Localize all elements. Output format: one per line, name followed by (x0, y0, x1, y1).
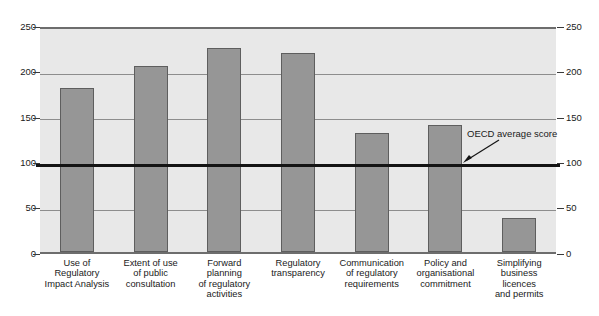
annotation-arrow-icon (455, 138, 501, 164)
bar-chart: 250 200 150 100 50 0 250 200 150 100 50 … (0, 0, 599, 316)
bar-regulatory-transparency (281, 53, 315, 252)
x-label-extent-of-use-of-public-consultation: Extent of useof publicconsultation (114, 258, 188, 300)
y-tick-right-150: 150 (566, 113, 599, 123)
bar-use-of-regulatory-impact-analysis (60, 88, 94, 252)
tickmark-left-250 (33, 27, 40, 28)
bar-forward-planning-of-regulatory-activities (207, 48, 241, 252)
x-label-simplifying-business-licences-and-permits: Simplifyingbusinesslicencesand permits (482, 258, 556, 300)
tickmark-right-0 (557, 254, 564, 255)
y-tick-right-100: 100 (566, 158, 599, 168)
x-label-forward-planning-of-regulatory-activities: Forwardplanningof regulatoryactivities (187, 258, 261, 300)
tickmark-right-200 (557, 72, 564, 73)
bar-communication-of-regulatory-requirements (355, 133, 389, 252)
x-axis-labels: Use ofRegulatoryImpact Analysis Extent o… (40, 258, 556, 300)
bar-extent-of-use-of-public-consultation (134, 66, 168, 252)
tickmark-left-0 (33, 254, 40, 255)
tickmark-left-50 (33, 208, 40, 209)
tickmark-right-50 (557, 208, 564, 209)
tickmark-right-150 (557, 118, 564, 119)
x-label-communication-of-regulatory-requirements: Communicationof regulatoryrequirements (335, 258, 409, 300)
y-tick-left-150: 150 (0, 113, 36, 123)
tickmark-right-250 (557, 27, 564, 28)
y-tick-right-50: 50 (566, 203, 599, 213)
y-tick-right-250: 250 (566, 22, 599, 32)
y-tick-left-200: 200 (0, 67, 36, 77)
y-tick-left-0: 0 (0, 249, 36, 259)
tickmark-left-100 (33, 163, 40, 164)
y-tick-right-200: 200 (566, 67, 599, 77)
tickmark-left-150 (33, 118, 40, 119)
tickmark-left-200 (33, 72, 40, 73)
bar-slot (114, 29, 188, 252)
y-tick-right-0: 0 (566, 249, 599, 259)
y-tick-left-100: 100 (0, 158, 36, 168)
bar-slot (40, 29, 114, 252)
x-label-policy-and-organisational-commitment: Policy andorganisationalcommitment (409, 258, 483, 300)
x-label-use-of-regulatory-impact-analysis: Use ofRegulatoryImpact Analysis (40, 258, 114, 300)
bar-slot (335, 29, 409, 252)
bar-simplifying-business-licences-and-permits (502, 218, 536, 252)
oecd-average-reference-line (36, 164, 560, 167)
x-label-regulatory-transparency: Regulatorytransparency (261, 258, 335, 300)
y-tick-left-50: 50 (0, 203, 36, 213)
y-tick-left-250: 250 (0, 22, 36, 32)
bar-slot (187, 29, 261, 252)
bar-slot (261, 29, 335, 252)
tickmark-right-100 (557, 163, 564, 164)
